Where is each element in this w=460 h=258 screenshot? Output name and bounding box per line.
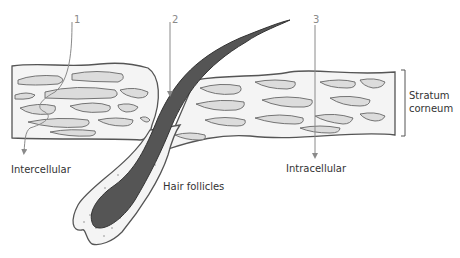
route-2-number: 2 bbox=[172, 14, 178, 25]
stratum-corneum-label-line2: corneum bbox=[409, 103, 453, 114]
skin-penetration-diagram bbox=[0, 0, 460, 258]
route-3-number: 3 bbox=[313, 14, 319, 25]
intercellular-label: Intercellular bbox=[11, 164, 71, 175]
stratum-corneum-label-line1: Stratum bbox=[409, 90, 450, 101]
hair-follicles-label: Hair follicles bbox=[163, 181, 224, 192]
stratum-corneum-bracket bbox=[401, 70, 405, 136]
intracellular-label: Intracellular bbox=[286, 163, 346, 174]
route-1-number: 1 bbox=[74, 14, 80, 25]
